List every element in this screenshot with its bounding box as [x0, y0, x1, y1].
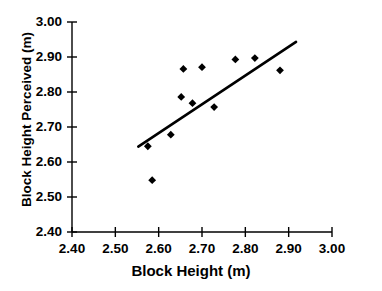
data-point-marker [231, 56, 239, 64]
trendline [138, 42, 296, 147]
data-markers-group [144, 54, 284, 184]
data-point-marker [177, 93, 185, 101]
data-point-marker [210, 103, 218, 111]
y-axis-title: Block Height Perceived (m) [19, 10, 34, 230]
scatter-chart-figure: 2.402.502.602.702.802.903.002.402.502.60… [0, 0, 382, 291]
x-tick-label: 3.00 [305, 241, 359, 256]
data-point-marker [276, 66, 284, 74]
data-point-marker [198, 63, 206, 71]
data-point-marker [179, 65, 187, 73]
data-point-marker [189, 99, 197, 107]
x-axis-title: Block Height (m) [0, 262, 382, 279]
trendline-segment [138, 42, 296, 147]
data-point-marker [251, 54, 259, 62]
data-point-marker [148, 176, 156, 184]
axes-group [72, 22, 332, 232]
data-point-marker [167, 131, 175, 139]
